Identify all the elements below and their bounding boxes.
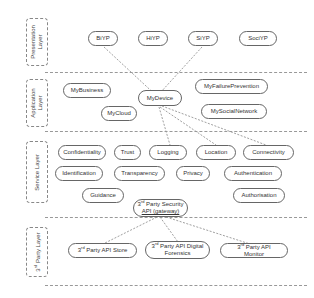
link-gateway-monitor — [163, 216, 250, 244]
link-mydevice-logging — [159, 107, 170, 145]
api-store-label: 3rd Party API Store — [78, 247, 128, 254]
layer-label-text: Service Layer — [34, 154, 41, 191]
node-hiyp: HiYP — [138, 31, 168, 46]
layer-label-service: Service Layer — [26, 141, 48, 203]
layer-label-text: Presentation Layer — [30, 25, 44, 59]
node-authentication: Authentication — [224, 166, 282, 181]
gateway-line1: 3rd Party Security — [138, 201, 184, 208]
node-location: Location — [196, 145, 236, 160]
node-authorisation: Authorisation — [233, 188, 285, 203]
node-trust: Trust — [114, 145, 141, 160]
node-logging: Logging — [149, 145, 187, 160]
link-gateway-forensics — [160, 217, 178, 242]
node-transparency: Transparency — [114, 166, 165, 181]
layer-label-text: 3rd Party Layer — [32, 232, 42, 271]
layer-separator — [45, 131, 307, 132]
node-mybusiness: MyBusiness — [63, 83, 111, 98]
api-monitor-label: 3rd Party API Monitor — [231, 244, 277, 258]
api-forensics-label: 3rd Party API Digital Forensics — [149, 243, 206, 257]
link-gateway-store — [103, 217, 157, 244]
node-confidentiality: Confidentiality — [58, 145, 106, 160]
node-privacy: Privacy — [176, 166, 210, 181]
node-mysocialnetwork: MySocialNetwork — [201, 104, 267, 119]
node-mycloud: MyCloud — [101, 106, 137, 121]
node-api-monitor: 3rd Party API Monitor — [220, 243, 288, 258]
node-api-digital-forensics: 3rd Party API Digital Forensics — [145, 241, 210, 259]
gateway-line2: API (gateway) — [142, 208, 180, 215]
node-api-store: 3rd Party API Store — [68, 243, 137, 258]
layer-label-text: Application Layer — [30, 88, 44, 117]
node-sociyp: SociYP — [239, 31, 277, 46]
layer-separator — [45, 285, 307, 286]
node-connectivity: Connectivity — [243, 145, 294, 160]
node-identification: Identification — [55, 166, 103, 181]
node-guidance: Guidance — [82, 188, 124, 203]
layer-label-application: Application Layer — [26, 79, 48, 127]
node-siyp: SiYP — [188, 31, 218, 46]
node-mydevice: MyDevice — [138, 90, 182, 106]
node-biyp: BiYP — [88, 31, 118, 46]
node-security-api-gateway: 3rd Party Security API (gateway) — [133, 199, 188, 217]
node-myfailureprevention: MyFailurePrevention — [195, 79, 268, 94]
layer-label-third-party: 3rd Party Layer — [26, 227, 48, 277]
layer-separator — [45, 72, 307, 73]
layer-separator — [45, 217, 307, 218]
layer-label-presentation: Presentation Layer — [26, 18, 48, 66]
